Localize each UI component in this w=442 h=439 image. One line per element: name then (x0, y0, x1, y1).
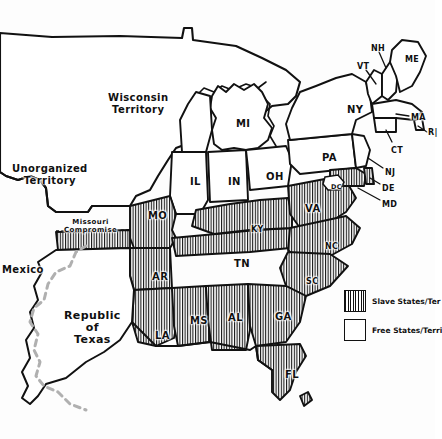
state-CT (374, 118, 396, 132)
state-MO (130, 196, 176, 248)
territory-line-2: Territory (108, 104, 168, 116)
state-label-MS: MS (190, 315, 208, 326)
state-DE (364, 168, 374, 184)
state-label-SC: SC (306, 277, 318, 286)
territory-line-1: Wisconsin (108, 92, 168, 104)
territory-label-republic-of-texas: Republic of Texas (64, 310, 121, 346)
state-label-MD: MD (382, 200, 397, 209)
state-label-FL: FL (285, 369, 299, 380)
state-label-NY: NY (347, 104, 363, 115)
legend-item-free-states: Free States/Terri (344, 319, 442, 341)
state-label-MI: MI (236, 118, 250, 129)
state-label-CT: CT (391, 146, 403, 155)
state-label-IL: IL (190, 176, 201, 187)
territory-line-1: Unorganized (12, 163, 88, 175)
legend-swatch-blank (344, 319, 366, 341)
territory-label-mexico: Mexico (2, 264, 44, 276)
annotation-line-2: Compromise (64, 227, 117, 235)
state-OH (246, 146, 292, 190)
leader-NH (379, 52, 386, 68)
state-label-NH: NH (371, 44, 385, 53)
state-label-LA: LA (155, 330, 170, 341)
territory-label-unorganized-territory: Unorganized Territory (12, 163, 88, 186)
map-legend: Slave States/Ter Free States/Terri (344, 290, 442, 348)
state-label-VT: VT (357, 62, 369, 71)
annotation-missouri-compromise: Missouri Compromise (64, 219, 117, 235)
legend-swatch-hatched (344, 290, 366, 312)
state-label-MA: MA (411, 113, 426, 122)
state-label-DE: DE (382, 184, 395, 193)
leader-MD (358, 188, 380, 200)
state-IL (170, 152, 208, 214)
territory-label-wisconsin-territory: Wisconsin Territory (108, 92, 168, 115)
territory-line-1: Mexico (2, 264, 44, 276)
state-label-R|: R| (428, 128, 438, 137)
state-label-PA: PA (322, 152, 337, 163)
state-label-DC: DC (331, 183, 342, 191)
state-NJ (352, 134, 370, 168)
state-label-VA: VA (305, 203, 321, 214)
florida-keys (300, 392, 312, 406)
leader-NJ (368, 158, 383, 168)
state-label-AR: AR (152, 271, 168, 282)
state-label-KY: KY (251, 225, 264, 234)
state-label-NJ: NJ (385, 168, 395, 177)
territory-line-3: Texas (64, 334, 121, 346)
state-label-AL: AL (228, 312, 243, 323)
state-label-MO: MO (148, 210, 167, 221)
territory-line-2: Territory (12, 175, 88, 187)
state-label-GA: GA (275, 311, 292, 322)
state-label-IN: IN (228, 176, 241, 187)
legend-item-slave-states: Slave States/Ter (344, 290, 442, 312)
state-label-TN: TN (234, 258, 250, 269)
state-AR (130, 248, 172, 290)
legend-label-free-states: Free States/Terri (372, 326, 442, 335)
state-label-ME: ME (405, 55, 419, 64)
state-label-OH: OH (266, 171, 284, 182)
legend-label-slave-states: Slave States/Ter (372, 297, 440, 306)
state-MI (210, 84, 272, 150)
state-label-NC: NC (325, 242, 338, 251)
